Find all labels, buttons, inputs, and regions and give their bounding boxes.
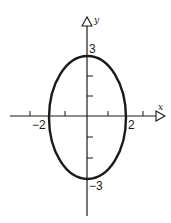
diagram-canvas: x y −2 2 3 −3 bbox=[0, 0, 171, 223]
x-axis-label: x bbox=[158, 102, 163, 112]
y-axis-label: y bbox=[93, 15, 100, 25]
label-y-pos: 3 bbox=[89, 42, 96, 56]
ellipse-diagram: x y −2 2 3 −3 bbox=[0, 0, 171, 223]
label-x-neg: −2 bbox=[32, 118, 46, 132]
label-y-neg: −3 bbox=[89, 179, 103, 193]
x-axis-arrow-icon bbox=[156, 111, 165, 121]
label-x-pos: 2 bbox=[128, 118, 135, 132]
y-ticks bbox=[87, 76, 93, 158]
y-axis-arrow-icon bbox=[82, 17, 92, 26]
